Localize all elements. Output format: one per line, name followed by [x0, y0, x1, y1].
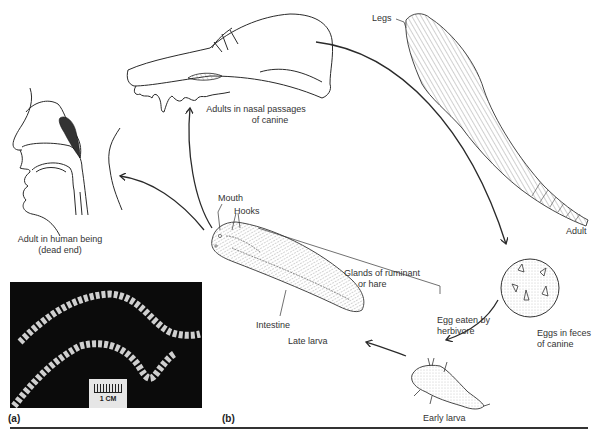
label-canine-host: Adults in nasal passages of canine [196, 104, 316, 126]
adult-worm-illustration [406, 14, 588, 226]
label-eggs: Eggs in feces of canine [537, 328, 591, 350]
scale-bar: 1 CM [89, 379, 127, 408]
panel-label-b: (b) [222, 413, 235, 424]
human-head-illustration [13, 88, 122, 236]
canine-skull-illustration [127, 14, 332, 112]
specimen-photo: 1 CM [10, 282, 202, 408]
eggs-in-feces-illustration [501, 259, 559, 317]
bottom-rule [10, 427, 588, 429]
egg-eaten-line1: Egg eaten by [437, 315, 490, 326]
label-glands: Glands of ruminant or hare [344, 268, 420, 290]
human-host-line1: Adult in human being [10, 234, 110, 245]
adult-legs-pointer [396, 19, 406, 28]
scale-label: 1 CM [89, 395, 127, 402]
glands-line1: Glands of ruminant [344, 268, 420, 279]
label-mouth: Mouth [218, 193, 243, 204]
label-egg-eaten: Egg eaten by herbivore [437, 315, 490, 337]
label-late-larva: Late larva [288, 336, 328, 347]
label-early-larva: Early larva [423, 413, 466, 424]
panel-label-a: (a) [8, 413, 20, 424]
arrow-late-larva-to-canine [189, 108, 212, 228]
glands-line2: or hare [344, 279, 420, 290]
label-intestine: Intestine [256, 320, 290, 331]
scale-ticks [94, 384, 122, 393]
late-larva-illustration [212, 222, 364, 312]
eggs-line1: Eggs in feces [537, 328, 591, 339]
arrow-late-larva-to-human [120, 176, 204, 230]
arrow-early-larva-to-late-larva [366, 342, 406, 356]
label-adult: Adult [566, 226, 587, 237]
eggs-line2: of canine [537, 339, 591, 350]
human-host-line2: (dead end) [10, 245, 110, 256]
label-legs: Legs [372, 13, 392, 24]
early-larva-illustration [412, 358, 490, 409]
parasite-in-human-nose [59, 117, 80, 158]
canine-host-line2: of canine [196, 115, 316, 126]
label-human-host: Adult in human being (dead end) [10, 234, 110, 256]
egg-eaten-line2: herbivore [437, 326, 490, 337]
parasite-in-canine-nasal-passage [188, 73, 222, 80]
label-hooks: Hooks [234, 206, 260, 217]
canine-host-line1: Adults in nasal passages [196, 104, 316, 115]
